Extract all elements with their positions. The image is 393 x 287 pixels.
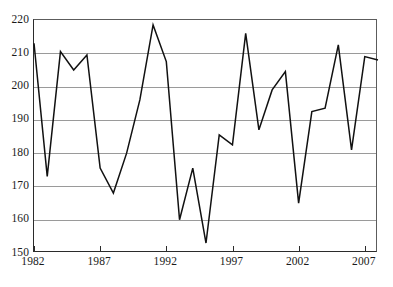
y-axis-tick-label: 170 [11,180,29,192]
y-axis-tick-labels: 150160170180190200210220 [0,0,29,287]
y-axis-tick-label: 180 [11,147,29,159]
x-axis-tick-label: 1997 [220,256,243,268]
y-axis-tick-label: 210 [11,47,29,59]
y-axis-tick-label: 200 [11,80,29,92]
x-axis-tick-label: 2007 [352,256,375,268]
series-line-path [34,25,378,243]
y-axis-tick-label: 160 [11,213,29,225]
y-axis-tick-label: 220 [11,14,29,26]
x-axis-tick-label: 1987 [87,256,110,268]
series-line-svg [34,20,376,251]
y-axis-tick-label: 190 [11,113,29,125]
x-axis-tick-label: 1992 [154,256,177,268]
x-axis-tick-label: 1982 [21,256,44,268]
x-axis-tick-label: 2002 [286,256,309,268]
line-chart: 150160170180190200210220 198219871992199… [0,0,393,287]
plot-area [33,19,377,252]
